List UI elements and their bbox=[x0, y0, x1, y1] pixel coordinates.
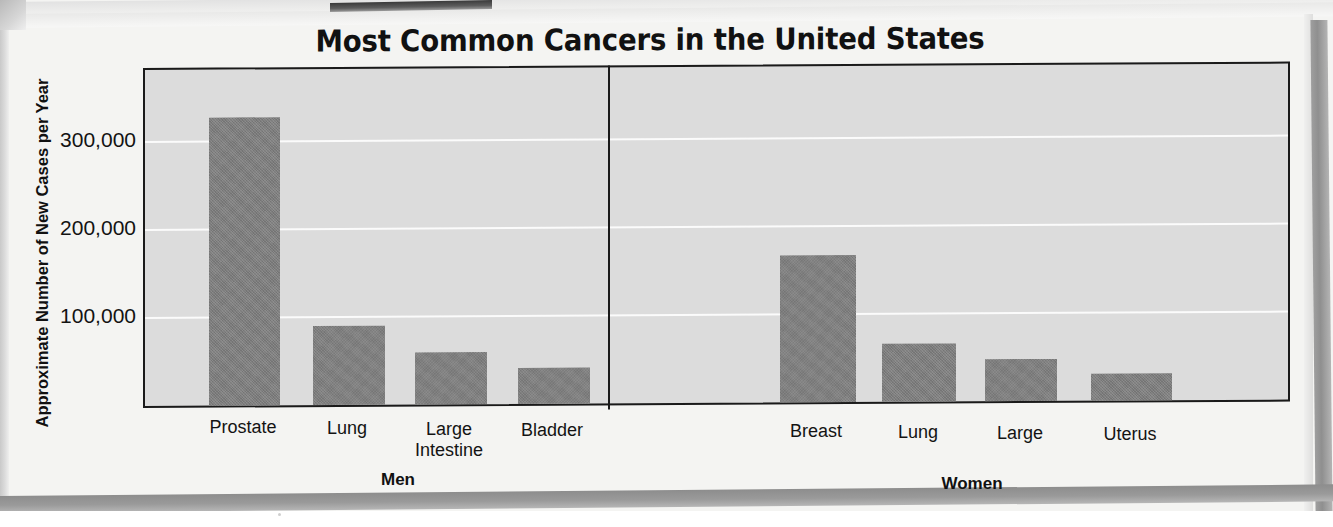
chart-title: Most Common Cancers in the United States bbox=[52, 19, 1248, 60]
page-corner-fold bbox=[0, 0, 26, 30]
page-bottom-edge-shadow bbox=[0, 484, 1333, 513]
chart-page: Most Common Cancers in the United States… bbox=[0, 0, 1333, 527]
bar-breast bbox=[780, 255, 856, 403]
gridline-200000 bbox=[145, 223, 1288, 231]
group-divider bbox=[608, 65, 610, 409]
bar-men-large-intestine bbox=[415, 352, 487, 405]
page-bottom-margin bbox=[0, 511, 1333, 527]
page-right-edge-shadow bbox=[1310, 20, 1332, 515]
bar-bladder bbox=[518, 367, 590, 404]
bar-women-large-intestine bbox=[985, 359, 1057, 402]
y-tick-100000: 100,000 bbox=[11, 304, 136, 328]
plot-area bbox=[143, 62, 1290, 408]
category-label-bladder: Bladder bbox=[472, 420, 632, 441]
y-tick-300000: 300,000 bbox=[11, 128, 136, 152]
bar-men-lung bbox=[313, 325, 385, 405]
bar-women-lung bbox=[882, 344, 956, 402]
category-label-uterus: Uterus bbox=[1050, 424, 1210, 445]
group-label-men: Men bbox=[318, 470, 478, 490]
y-axis-tick-labels: 300,000 200,000 100,000 bbox=[8, 68, 136, 408]
bar-prostate bbox=[209, 118, 280, 406]
scan-speck bbox=[278, 513, 281, 516]
y-tick-200000: 200,000 bbox=[11, 216, 136, 240]
gridline-300000 bbox=[145, 135, 1288, 143]
gridline-100000 bbox=[145, 311, 1288, 319]
group-label-women: Women bbox=[892, 474, 1052, 494]
bar-uterus bbox=[1091, 373, 1172, 400]
